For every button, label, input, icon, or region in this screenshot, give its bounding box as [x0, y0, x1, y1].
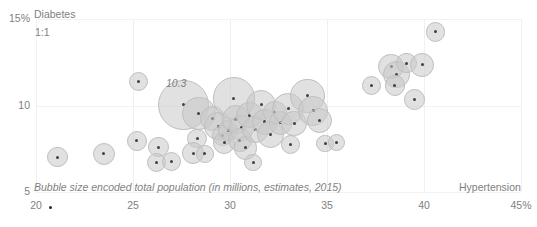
chart-footnote: Bubble size encoded total population (in…	[34, 181, 342, 193]
bubble-center-marker	[252, 161, 255, 164]
legend-size-dot	[49, 206, 52, 209]
bubble-center-marker	[56, 156, 59, 159]
x-tick-label: 30	[210, 199, 250, 211]
bubble-center-marker	[318, 119, 321, 122]
y-tick-label: 10	[0, 99, 30, 111]
x-axis-title: Hypertension	[459, 181, 521, 193]
x-tick-label: 35	[307, 199, 347, 211]
bubble-center-marker	[260, 103, 263, 106]
annotation-ratio: 1:1	[35, 26, 50, 38]
x-tick-label: 25	[113, 199, 153, 211]
bubble-chart: 15%105 202530354045% Diabetes Hypertensi…	[0, 0, 537, 227]
bubble-center-marker	[155, 161, 158, 164]
bubble-center-marker	[196, 137, 199, 140]
x-tick-label: 40	[404, 199, 444, 211]
x-tick-label: 45%	[501, 199, 537, 211]
y-tick-label: 15%	[0, 12, 30, 24]
y-axis-title: Diabetes	[34, 8, 75, 20]
bubble-center-marker	[192, 152, 195, 155]
bubble-center-marker	[293, 122, 296, 125]
annotation-value: 10.3	[166, 77, 186, 89]
bubble-center-marker	[289, 143, 292, 146]
gridline-vertical	[521, 19, 522, 192]
bubble-center-marker	[324, 142, 327, 145]
y-tick-label: 5	[0, 185, 30, 197]
bubble-center-marker	[405, 62, 408, 65]
bubble-center-marker	[223, 141, 226, 144]
gridline-horizontal	[36, 19, 521, 20]
x-tick-label: 20	[16, 199, 56, 211]
bubble-center-marker	[157, 146, 160, 149]
bubble-center-marker	[413, 98, 416, 101]
